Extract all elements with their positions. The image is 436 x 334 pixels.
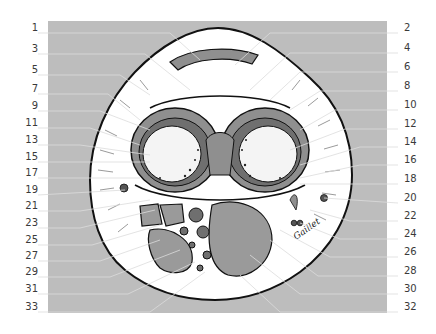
- label-29: 29: [0, 267, 38, 277]
- label-2: 2: [404, 23, 434, 33]
- label-17: 17: [0, 168, 38, 178]
- label-15: 15: [0, 152, 38, 162]
- label-25: 25: [0, 235, 38, 245]
- label-28: 28: [404, 266, 434, 276]
- label-10: 10: [404, 100, 434, 110]
- label-20: 20: [404, 193, 434, 203]
- label-6: 6: [404, 62, 434, 72]
- medial-condyle: [221, 108, 309, 192]
- label-4: 4: [404, 43, 434, 53]
- label-3: 3: [0, 44, 38, 54]
- label-26: 26: [404, 247, 434, 257]
- label-8: 8: [404, 81, 434, 91]
- label-30: 30: [404, 284, 434, 294]
- label-21: 21: [0, 201, 38, 211]
- label-16: 16: [404, 155, 434, 165]
- label-5: 5: [0, 65, 38, 75]
- cross-section-illustration: Gaillet: [0, 0, 436, 334]
- label-24: 24: [404, 229, 434, 239]
- intercondylar-notch: [206, 133, 234, 176]
- label-9: 9: [0, 101, 38, 111]
- label-1: 1: [0, 23, 38, 33]
- label-7: 7: [0, 84, 38, 94]
- lateral-condyle: [131, 108, 219, 192]
- label-13: 13: [0, 135, 38, 145]
- label-23: 23: [0, 218, 38, 228]
- label-32: 32: [404, 302, 434, 312]
- label-12: 12: [404, 119, 434, 129]
- label-31: 31: [0, 284, 38, 294]
- label-18: 18: [404, 174, 434, 184]
- label-19: 19: [0, 185, 38, 195]
- label-14: 14: [404, 137, 434, 147]
- label-11: 11: [0, 118, 38, 128]
- label-27: 27: [0, 251, 38, 261]
- label-22: 22: [404, 211, 434, 221]
- label-33: 33: [0, 302, 38, 312]
